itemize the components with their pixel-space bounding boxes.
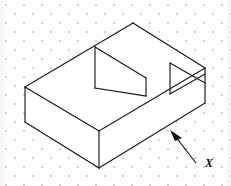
grid-dot — [50, 13, 52, 15]
grid-dot — [212, 49, 214, 51]
grid-dot — [68, 31, 70, 33]
grid-dot — [230, 13, 231, 15]
grid-dot — [122, 157, 124, 159]
grid-dot — [68, 13, 70, 15]
grid-dot — [23, 58, 25, 60]
grid-dot — [158, 139, 160, 141]
grid-dot — [14, 85, 16, 87]
grid-dot — [140, 157, 142, 159]
grid-dot — [95, 184, 97, 186]
grid-dot — [230, 157, 231, 159]
grid-dot — [230, 121, 231, 123]
grid-dot — [230, 103, 231, 105]
grid-dot — [14, 49, 16, 51]
isometric-drawing: X — [0, 0, 231, 186]
grid-dot — [32, 13, 34, 15]
grid-dot — [23, 22, 25, 24]
grid-dot — [149, 4, 151, 6]
grid-dot — [122, 175, 124, 177]
grid-dot — [113, 166, 115, 168]
grid-dot — [41, 40, 43, 42]
grid-dot — [113, 4, 115, 6]
grid-dot — [77, 166, 79, 168]
grid-dot — [230, 49, 231, 51]
grid-dot — [167, 130, 169, 132]
grid-dot — [32, 67, 34, 69]
grid-dot — [149, 148, 151, 150]
grid-dot — [194, 139, 196, 141]
grid-dot — [5, 166, 7, 168]
grid-dot — [50, 49, 52, 51]
grid-dot — [203, 130, 205, 132]
grid-dot — [41, 166, 43, 168]
grid-dot — [176, 175, 178, 177]
grid-dot — [41, 148, 43, 150]
grid-dot — [167, 166, 169, 168]
grid-dot — [158, 31, 160, 33]
grid-dot — [131, 184, 133, 186]
grid-dot — [5, 22, 7, 24]
grid-dot — [212, 121, 214, 123]
grid-dot — [23, 148, 25, 150]
grid-dot — [230, 67, 231, 69]
grid-dot — [212, 103, 214, 105]
grid-dot — [203, 40, 205, 42]
grid-dot — [104, 175, 106, 177]
grid-dot — [221, 40, 223, 42]
grid-dot — [185, 130, 187, 132]
grid-dot — [95, 4, 97, 6]
grid-dot — [113, 22, 115, 24]
grid-dot — [221, 22, 223, 24]
grid-dot — [23, 184, 25, 186]
grid-dot — [221, 112, 223, 114]
grid-dot — [104, 31, 106, 33]
isometric-figure-container: X — [0, 0, 231, 186]
grid-dot — [5, 40, 7, 42]
grid-dot — [212, 175, 214, 177]
grid-dot — [14, 31, 16, 33]
grid-dot — [5, 184, 7, 186]
grid-dot — [194, 49, 196, 51]
grid-dot — [131, 166, 133, 168]
grid-dot — [23, 130, 25, 132]
grid-dot — [176, 157, 178, 159]
grid-dot — [32, 31, 34, 33]
grid-dot — [176, 31, 178, 33]
grid-dot — [158, 13, 160, 15]
grid-dot — [167, 22, 169, 24]
grid-dot — [95, 40, 97, 42]
leader-annotation: X — [170, 130, 214, 170]
grid-dot — [185, 4, 187, 6]
grid-dot — [221, 76, 223, 78]
grid-dot — [32, 49, 34, 51]
grid-dot — [185, 22, 187, 24]
grid-dot — [95, 22, 97, 24]
grid-dot — [203, 112, 205, 114]
grid-dot — [212, 67, 214, 69]
grid-dot — [194, 157, 196, 159]
grid-dot — [185, 184, 187, 186]
grid-dot — [212, 31, 214, 33]
grid-dot — [5, 58, 7, 60]
grid-dot — [158, 157, 160, 159]
grid-dot — [203, 22, 205, 24]
grid-dot — [59, 58, 61, 60]
grid-dot — [158, 175, 160, 177]
grid-dot — [68, 157, 70, 159]
grid-dot — [59, 4, 61, 6]
grid-dot — [203, 184, 205, 186]
grid-dot — [185, 40, 187, 42]
grid-dot — [59, 148, 61, 150]
grid-dot — [113, 184, 115, 186]
solid-faces — [25, 23, 205, 168]
grid-dot — [59, 184, 61, 186]
grid-dot — [5, 4, 7, 6]
grid-dot — [221, 166, 223, 168]
surface-label-x: X — [204, 156, 214, 170]
grid-dot — [149, 22, 151, 24]
grid-dot — [140, 13, 142, 15]
grid-dot — [77, 4, 79, 6]
grid-dot — [86, 31, 88, 33]
grid-dot — [194, 175, 196, 177]
arrowhead-icon — [170, 130, 182, 141]
